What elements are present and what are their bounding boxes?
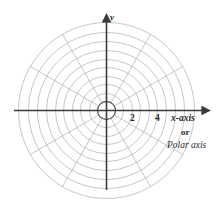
polar-coordinate-grid-figure: y 2 4 x-axis or Polar axis [0,0,221,215]
x-axis-tick-label-4: 4 [155,114,160,124]
cartesian-axes [14,21,203,190]
x-axis-label-connector: or [181,128,190,137]
x-axis-label: x-axis [171,114,195,124]
y-axis-label: y [110,13,114,22]
polar-grid-canvas [0,0,221,215]
x-axis-tick-label-2: 2 [130,114,135,124]
polar-axis-label: Polar axis [167,141,206,151]
